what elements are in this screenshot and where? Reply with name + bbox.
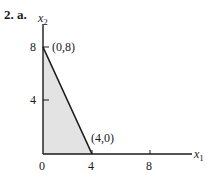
feasible-region-chart: x2 x1 8 4 0 4 8 (0,8) (4,0) (0, 0, 220, 185)
x-axis-label: x1 (193, 147, 204, 163)
y-tick-label-8: 8 (30, 40, 36, 54)
x-tick-label-8: 8 (146, 159, 152, 173)
y-axis-label: x2 (37, 11, 48, 27)
point-label-0-8: (0,8) (52, 40, 75, 54)
point-label-4-0: (4,0) (91, 131, 114, 145)
y-tick-label-4: 4 (30, 93, 36, 107)
x-tick-label-4: 4 (88, 159, 94, 173)
origin-label: 0 (39, 159, 45, 173)
